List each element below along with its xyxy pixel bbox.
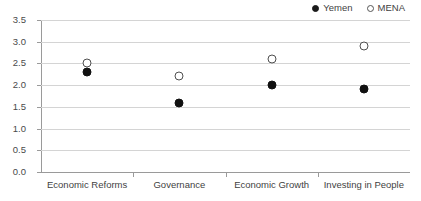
- legend-item-yemen[interactable]: Yemen: [312, 2, 352, 14]
- y-axis-tick-label: 3.0: [0, 37, 26, 47]
- data-point-yemen[interactable]: [175, 98, 184, 107]
- data-point-mena[interactable]: [175, 72, 184, 81]
- category-divider: [133, 172, 134, 177]
- category-divider: [226, 172, 227, 177]
- y-axis-tick: [37, 107, 41, 108]
- y-axis-tick: [37, 63, 41, 64]
- filled-circle-icon: [312, 5, 319, 12]
- y-axis-tick-label: 2.5: [0, 58, 26, 68]
- open-circle-icon: [367, 5, 374, 12]
- legend-label-mena: MENA: [378, 2, 405, 14]
- y-axis-tick-label: 3.5: [0, 15, 26, 25]
- legend-item-mena[interactable]: MENA: [367, 2, 405, 14]
- x-axis-labels: Economic ReformsGovernanceEconomic Growt…: [41, 179, 410, 191]
- y-axis-tick-label: 2.0: [0, 80, 26, 90]
- gridline: [41, 107, 410, 108]
- data-point-yemen[interactable]: [83, 68, 92, 77]
- y-axis-tick: [37, 85, 41, 86]
- data-point-yemen[interactable]: [267, 81, 276, 90]
- y-axis-tick: [37, 20, 41, 21]
- y-axis-tick-label: 0.0: [0, 167, 26, 177]
- y-axis-tick: [37, 42, 41, 43]
- x-axis-category-label: Economic Reforms: [41, 179, 133, 191]
- y-axis-tick-label: 1.5: [0, 102, 26, 112]
- y-axis-tick: [37, 129, 41, 130]
- gridline: [41, 42, 410, 43]
- data-point-mena[interactable]: [359, 42, 368, 51]
- x-axis-category-label: Governance: [133, 179, 225, 191]
- data-point-yemen[interactable]: [359, 85, 368, 94]
- y-axis-tick-label: 0.5: [0, 145, 26, 155]
- gridline: [41, 63, 410, 64]
- gridline: [41, 20, 410, 21]
- scatter-chart: Yemen MENA 0.00.51.01.52.02.53.03.5 Econ…: [0, 0, 421, 201]
- category-divider: [318, 172, 319, 177]
- y-axis-tick: [37, 150, 41, 151]
- chart-legend: Yemen MENA: [312, 2, 405, 14]
- data-point-mena[interactable]: [83, 59, 92, 68]
- x-axis-category-label: Investing in People: [318, 179, 410, 191]
- gridline: [41, 150, 410, 151]
- legend-label-yemen: Yemen: [323, 2, 352, 14]
- gridline: [41, 129, 410, 130]
- plot-area: 0.00.51.01.52.02.53.03.5: [41, 20, 410, 172]
- y-axis-tick-label: 1.0: [0, 124, 26, 134]
- data-point-mena[interactable]: [267, 55, 276, 64]
- gridline: [41, 85, 410, 86]
- y-axis-tick: [37, 172, 41, 173]
- x-axis-category-label: Economic Growth: [226, 179, 318, 191]
